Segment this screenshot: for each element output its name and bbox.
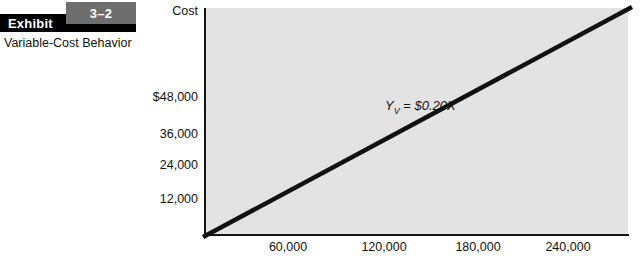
y-axis-title: Cost [78, 4, 198, 18]
x-tick-label-240000: 240,000 [523, 240, 613, 254]
y-tick-label-12000: 12,000 [78, 192, 198, 206]
exhibit-label: Exhibit [8, 15, 53, 32]
x-tick-label-120000: 120,000 [339, 240, 429, 254]
x-tick-label-60000: 60,000 [243, 240, 333, 254]
y-tick-label-36000: 36,000 [78, 127, 198, 141]
equation-annotation: YV = $0.20X [385, 98, 456, 119]
equation-lhs: Y [385, 98, 394, 113]
variable-cost-chart: Cost $48,000 36,000 24,000 12,000 60,000… [140, 0, 640, 269]
exhibit-subtitle: Variable-Cost Behavior [4, 36, 132, 51]
y-tick-label-48000: $48,000 [78, 90, 198, 104]
y-tick-label-24000: 24,000 [78, 158, 198, 172]
variable-cost-line [205, 8, 630, 236]
equation-rhs: $0.20X [415, 98, 456, 113]
x-tick-label-180000: 180,000 [433, 240, 523, 254]
equation-operator: = [403, 98, 411, 113]
